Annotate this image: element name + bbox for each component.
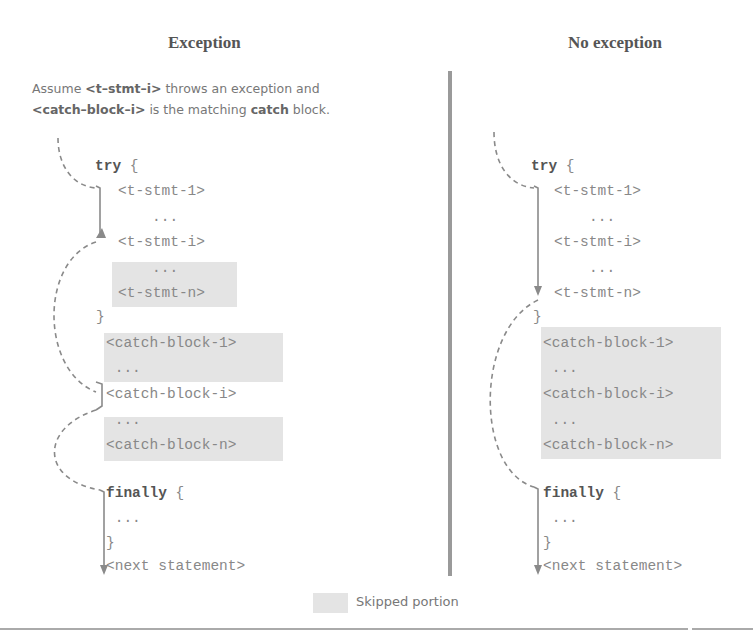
legend-label: Skipped portion — [356, 594, 459, 609]
flow-arrows — [0, 0, 753, 643]
bottom-rule — [692, 628, 753, 630]
bottom-rule — [0, 628, 688, 630]
legend-swatch — [313, 593, 348, 613]
dashed-jump-arrow — [58, 138, 96, 188]
